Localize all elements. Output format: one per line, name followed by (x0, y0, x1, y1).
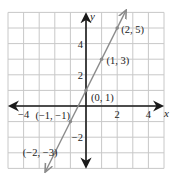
y-axis-label: y (89, 10, 95, 22)
coordinate-graph: x y −42442−2 (−2, −3)(−1, −1)(0, 1)(1, 3… (0, 0, 178, 181)
data-point (84, 89, 88, 93)
point-label: (−2, −3) (23, 147, 58, 159)
point-label: (2, 5) (121, 24, 144, 36)
x-tick-label: 2 (115, 109, 120, 120)
y-tick-label: 4 (78, 39, 84, 50)
data-point (115, 26, 119, 30)
x-axis-label: x (163, 107, 169, 119)
point-label: (0, 1) (91, 92, 114, 104)
point-label: (1, 3) (107, 55, 130, 67)
y-tick-label: 2 (78, 70, 83, 81)
x-tick-label: 4 (146, 109, 152, 120)
x-tick-label: −4 (18, 109, 30, 120)
axes: x y (10, 10, 169, 166)
point-label: (−1, −1) (35, 110, 70, 122)
y-tick-label: −2 (72, 132, 83, 143)
plotted-line: (−2, −3)(−1, −1)(0, 1)(1, 3)(2, 5) (23, 11, 145, 172)
data-point (100, 57, 104, 61)
